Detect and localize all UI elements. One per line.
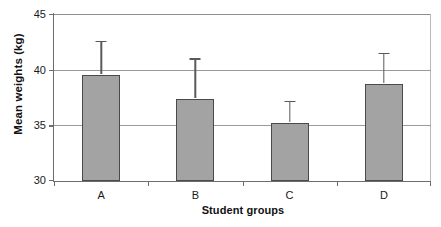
error-bar-c [289, 102, 290, 122]
error-bar-cap-d [378, 53, 389, 54]
bar-b[interactable] [176, 99, 214, 181]
bar-slot-c [243, 14, 337, 181]
bar-slot-d [337, 14, 431, 181]
error-bar-d [383, 54, 384, 83]
error-bar-cap-c [284, 101, 295, 102]
bar-slot-b [148, 14, 242, 181]
x-tick-0 [54, 181, 55, 186]
error-bar-a [100, 42, 101, 74]
error-bar-cap-b [190, 58, 201, 59]
y-axis-title: Mean weights (kg) [12, 4, 24, 164]
error-bar-b [195, 60, 196, 98]
y-tick-label-30: 30 [34, 174, 46, 186]
bar-a[interactable] [82, 75, 120, 181]
plot-area: 30 35 40 45 [54, 14, 431, 181]
x-tick-2 [243, 181, 244, 186]
x-category-label-c: C [286, 189, 294, 201]
y-tick-label-45: 45 [34, 8, 46, 20]
y-tick-label-40: 40 [34, 64, 46, 76]
bar-chart: Mean weights (kg) Student groups 30 35 4… [0, 0, 441, 227]
bar-slot-a [54, 14, 148, 181]
x-tick-4 [430, 181, 431, 186]
bar-c[interactable] [271, 123, 309, 181]
x-category-label-d: D [380, 189, 388, 201]
bar-d[interactable] [365, 84, 403, 181]
y-tick-label-35: 35 [34, 119, 46, 131]
x-axis-title: Student groups [54, 204, 432, 216]
error-bar-cap-a [96, 41, 107, 42]
x-tick-1 [148, 181, 149, 186]
x-category-label-a: A [97, 189, 104, 201]
x-category-label-b: B [192, 189, 199, 201]
x-tick-3 [337, 181, 338, 186]
